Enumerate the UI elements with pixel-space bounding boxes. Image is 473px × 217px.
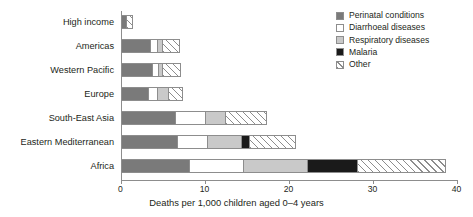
bar-segment-high-income-other [126,15,134,29]
legend-swatch-perinatal-conditions [336,12,344,20]
bar-segment-south-east-asia-perinatal-conditions [121,111,176,125]
legend-item-diarrhoeal-diseases[interactable]: Diarrhoeal diseases [336,22,472,34]
bar-eastern-mediterranean [121,135,297,149]
bar-western-pacific [121,63,181,77]
bar-segment-south-east-asia-diarrhoeal-diseases [175,111,205,125]
bar-segment-europe-respiratory-diseases [157,87,167,101]
bar-segment-europe-perinatal-conditions [121,87,149,101]
legend-swatch-diarrhoeal-diseases [336,24,344,32]
bar-segment-eastern-mediterranean-respiratory-diseases [207,135,241,149]
legend-swatch-malaria [336,48,344,56]
bar-segment-europe-other [168,87,184,101]
x-axis-tick-20 [289,180,290,184]
x-axis-tick-label-30: 30 [358,185,388,194]
bar-segment-western-pacific-perinatal-conditions [121,63,153,77]
legend-label-malaria: Malaria [349,48,377,57]
x-axis-tick-label-20: 20 [274,185,304,194]
category-label-africa: Africa [0,161,114,171]
legend-label-diarrhoeal-diseases: Diarrhoeal diseases [349,23,425,32]
legend-item-malaria[interactable]: Malaria [336,47,472,59]
legend-label-perinatal-conditions: Perinatal conditions [349,11,424,20]
x-axis-tick-10 [205,180,206,184]
y-axis-line [121,11,122,180]
bar-segment-africa-perinatal-conditions [121,159,189,173]
bar-americas [121,39,181,53]
bar-segment-south-east-asia-respiratory-diseases [205,111,225,125]
category-label-americas: Americas [0,41,114,51]
chart-legend: Perinatal conditionsDiarrhoeal diseasesR… [336,10,472,71]
bar-segment-eastern-mediterranean-diarrhoeal-diseases [177,135,207,149]
bar-segment-eastern-mediterranean-malaria [241,135,249,149]
x-axis-tick-40 [457,180,458,184]
x-axis-tick-30 [373,180,374,184]
x-axis-tick-label-40: 40 [442,185,472,194]
bar-segment-western-pacific-other [162,63,181,77]
x-axis-title: Deaths per 1,000 children aged 0–4 years [0,197,473,208]
legend-label-respiratory-diseases: Respiratory diseases [349,36,429,45]
legend-item-other[interactable]: Other [336,59,472,71]
stacked-bar-chart: High incomeAmericasWestern PacificEurope… [0,0,473,217]
bar-segment-europe-diarrhoeal-diseases [148,87,157,101]
x-axis-tick-0 [121,180,122,184]
bar-segment-eastern-mediterranean-other [249,135,296,149]
bar-segment-south-east-asia-other [225,111,266,125]
x-axis-tick-label-0: 0 [106,185,136,194]
category-label-europe: Europe [0,89,114,99]
legend-swatch-respiratory-diseases [336,36,344,44]
category-label-eastern-mediterranean: Eastern Mediterranean [0,137,114,147]
legend-swatch-other [336,61,344,69]
bar-segment-africa-other [357,159,445,173]
x-axis-tick-label-10: 10 [190,185,220,194]
bar-segment-americas-diarrhoeal-diseases [150,39,157,53]
bar-segment-americas-perinatal-conditions [121,39,150,53]
category-label-western-pacific: Western Pacific [0,65,114,75]
legend-item-respiratory-diseases[interactable]: Respiratory diseases [336,34,472,46]
bar-high-income [121,15,134,29]
bar-segment-africa-diarrhoeal-diseases [189,159,244,173]
bar-segment-eastern-mediterranean-perinatal-conditions [121,135,177,149]
bar-south-east-asia [121,111,267,125]
bar-segment-africa-malaria [307,159,357,173]
legend-label-other: Other [349,60,371,69]
category-label-south-east-asia: South-East Asia [0,113,114,123]
bar-segment-africa-respiratory-diseases [243,159,307,173]
bar-europe [121,87,184,101]
bar-africa [121,159,446,173]
category-label-high-income: High income [0,17,114,27]
bar-segment-americas-other [162,39,180,53]
legend-item-perinatal-conditions[interactable]: Perinatal conditions [336,10,472,22]
